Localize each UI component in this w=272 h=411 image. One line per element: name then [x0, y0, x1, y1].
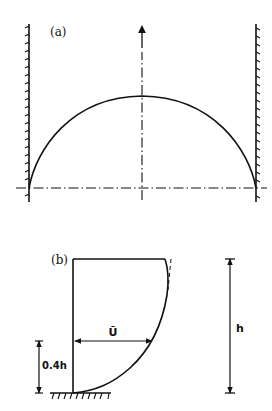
rough-bed — [50, 393, 111, 399]
mean-velocity-label: Ū — [109, 326, 118, 339]
panel-b-label: (b) — [51, 253, 68, 267]
vertical-velocity-profile — [73, 259, 168, 393]
panel-a: (a) — [16, 24, 267, 202]
panel-a-label: (a) — [50, 25, 67, 39]
panel-b: Ū 0.4h h — [35, 253, 244, 399]
dimension-h: h — [225, 259, 244, 393]
right-wall — [256, 24, 260, 202]
depth-label: h — [236, 322, 244, 335]
figure-canvas: (a) Ū 0.4h h — [0, 0, 272, 411]
left-wall — [25, 24, 29, 202]
dimension-0-4h: 0.4h — [35, 341, 67, 393]
mean-height-label: 0.4h — [42, 360, 67, 371]
